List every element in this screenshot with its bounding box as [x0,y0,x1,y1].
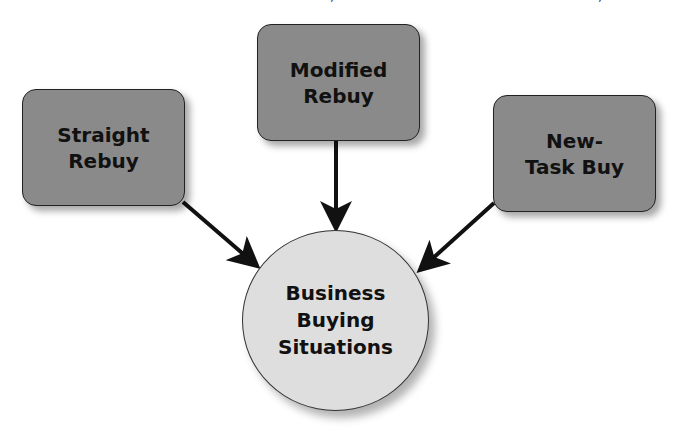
node-modified-rebuy: Modified Rebuy [257,24,420,141]
hub-line2: Buying [297,307,375,334]
arrow-new-task-buy-to-hub [421,203,494,269]
node-straight-rebuy: Straight Rebuy [22,89,185,206]
hub-line1: Business [286,280,386,307]
node-new-task-buy-line2: Task Buy [525,154,624,180]
node-new-task-buy-line1: New- [525,128,624,154]
node-modified-rebuy-line1: Modified [290,57,388,83]
node-straight-rebuy-line2: Rebuy [57,148,149,174]
node-new-task-buy: New- Task Buy [493,95,656,212]
arrow-straight-rebuy-to-hub [183,202,256,265]
node-modified-rebuy-line2: Rebuy [290,83,388,109]
node-straight-rebuy-line1: Straight [57,122,149,148]
hub-line3: Situations [278,334,393,361]
hub-business-buying-situations: Business Buying Situations [242,230,429,411]
